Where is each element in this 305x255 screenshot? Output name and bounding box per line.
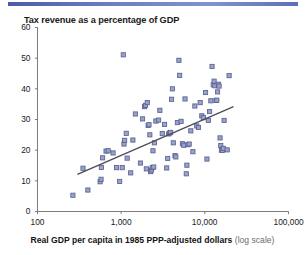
plot-area: 0102030405060 1001,00010,000100,000 <box>0 0 305 255</box>
scatter-point <box>124 131 128 135</box>
scatter-point <box>71 193 75 197</box>
scatter-point <box>215 98 219 102</box>
scatter-point <box>165 166 169 170</box>
y-axis-tick-label: 0 <box>11 207 31 215</box>
scatter-point <box>138 161 142 165</box>
scatter-point <box>189 129 193 133</box>
scatter-point <box>86 188 90 192</box>
scatter-point <box>174 155 178 159</box>
scatter-point <box>99 165 103 169</box>
x-axis-caption-note: (log scale) <box>235 235 275 245</box>
scatter-point <box>140 117 144 121</box>
scatter-point <box>166 156 170 160</box>
scatter-point <box>215 90 219 94</box>
scatter-point <box>209 99 213 103</box>
scatter-point <box>147 123 151 127</box>
chart-figure: Tax revenue as a percentage of GDP 01020… <box>0 0 305 255</box>
scatter-point <box>144 167 148 171</box>
scatter-point <box>121 53 125 57</box>
scatter-point <box>177 58 181 62</box>
scatter-point <box>207 109 211 113</box>
scatter-point <box>145 101 149 105</box>
scatter-point <box>183 97 187 101</box>
scatter-point <box>210 64 214 68</box>
scatter-plot-canvas <box>0 0 305 255</box>
scatter-point <box>205 157 209 161</box>
x-axis-tick-label: 10,000 <box>192 218 218 226</box>
scatter-point <box>171 141 175 145</box>
scatter-point <box>179 119 183 123</box>
scatter-point <box>203 90 207 94</box>
y-axis-tick-label: 40 <box>11 85 31 93</box>
y-axis-tick-label: 60 <box>11 23 31 31</box>
scatter-point <box>131 138 135 142</box>
scatter-point <box>185 163 189 167</box>
scatter-point <box>217 84 221 88</box>
scatter-point <box>182 143 186 147</box>
scatter-point <box>120 166 124 170</box>
scatter-point <box>169 97 173 101</box>
x-axis-tick-label: 100 <box>31 218 45 226</box>
scatter-point <box>212 79 216 83</box>
scatter-point <box>191 150 195 154</box>
scatter-point <box>81 166 85 170</box>
scatter-point <box>148 133 152 137</box>
scatter-point <box>156 118 160 122</box>
scatter-point <box>158 108 162 112</box>
scatter-point <box>99 177 103 181</box>
scatter-point <box>118 179 122 183</box>
scatter-point <box>184 172 188 176</box>
scatter-point <box>178 73 182 77</box>
scatter-point <box>133 112 137 116</box>
scatter-point <box>196 125 200 129</box>
scatter-point <box>123 138 127 142</box>
trend-line <box>77 107 233 175</box>
scatter-point <box>198 101 202 105</box>
scatter-point <box>187 142 191 146</box>
scatter-point <box>129 171 133 175</box>
y-axis-tick-label: 20 <box>11 146 31 154</box>
scatter-point <box>227 74 231 78</box>
scatter-point <box>101 156 105 160</box>
scatter-point <box>125 156 129 160</box>
scatter-point <box>193 104 197 108</box>
scatter-point <box>111 151 115 155</box>
x-axis-caption: Real GDP per capita in 1985 PPP-adjusted… <box>0 236 305 245</box>
scatter-point <box>170 87 174 91</box>
scatter-point <box>222 118 226 122</box>
x-axis-caption-main: Real GDP per capita in 1985 PPP-adjusted… <box>31 235 233 245</box>
y-axis-tick-label: 30 <box>11 115 31 123</box>
scatter-point <box>152 165 156 169</box>
y-axis-tick-label: 50 <box>11 54 31 62</box>
scatter-point <box>162 122 166 126</box>
x-axis-tick-label: 100,000 <box>274 218 304 226</box>
x-axis-tick-label: 1,000 <box>111 218 132 226</box>
scatter-point <box>151 149 155 153</box>
scatter-point <box>206 118 210 122</box>
scatter-point <box>114 166 118 170</box>
scatter-point <box>225 148 229 152</box>
y-axis-tick-label: 10 <box>11 177 31 185</box>
scatter-point <box>160 132 164 136</box>
scatter-point <box>218 136 222 140</box>
scatter-point <box>106 149 110 153</box>
